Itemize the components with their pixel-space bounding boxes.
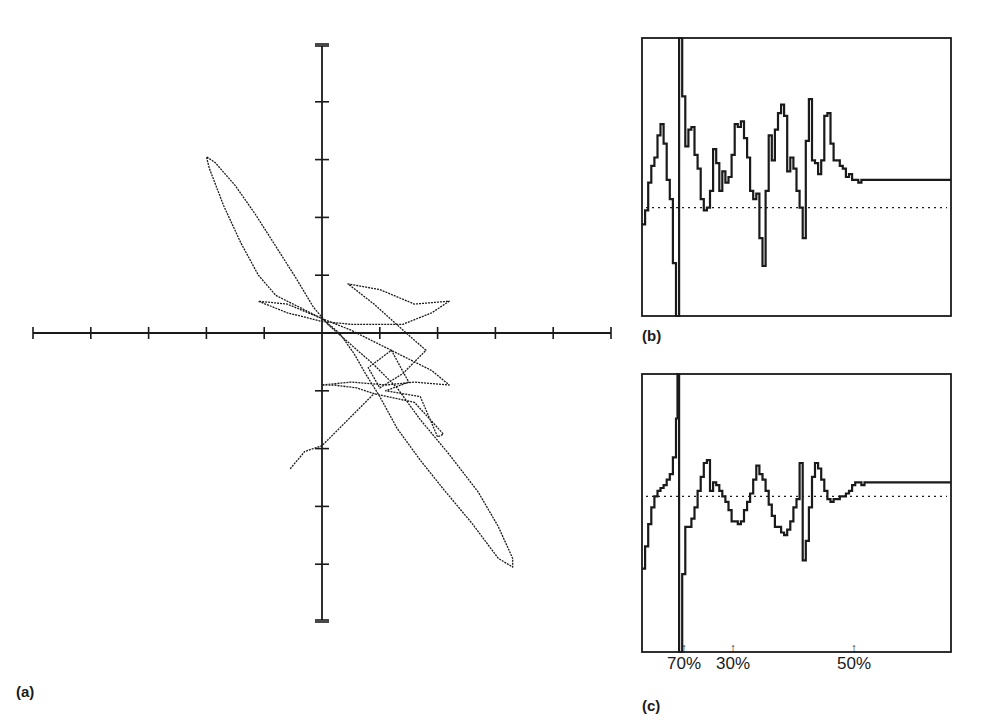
trajectory-line (206, 157, 512, 567)
phase-plot-a (0, 0, 630, 725)
arrow-up-icon: ↑ (716, 642, 750, 654)
arrow-up-icon: ↑ (667, 642, 701, 654)
signal-line (642, 38, 951, 316)
panel-label-a: (a) (16, 683, 34, 700)
marker-30-percent: ↑ 30% (716, 642, 750, 674)
time-series-plot-b (630, 0, 981, 360)
marker-70-percent: ↑ 70% (667, 642, 701, 674)
marker-50-percent: ↑ 50% (837, 642, 871, 674)
panel-label-c: (c) (642, 697, 660, 714)
panel-label-b: (b) (642, 327, 661, 344)
time-series-panel-b: (b) (630, 0, 981, 360)
phase-plot-panel-a: (a) (0, 0, 630, 725)
plot-frame (642, 374, 951, 652)
signal-line (642, 374, 951, 652)
time-series-panel-c: ↑ 70% ↑ 30% ↑ 50% (c) (630, 360, 981, 725)
arrow-up-icon: ↑ (837, 642, 871, 654)
